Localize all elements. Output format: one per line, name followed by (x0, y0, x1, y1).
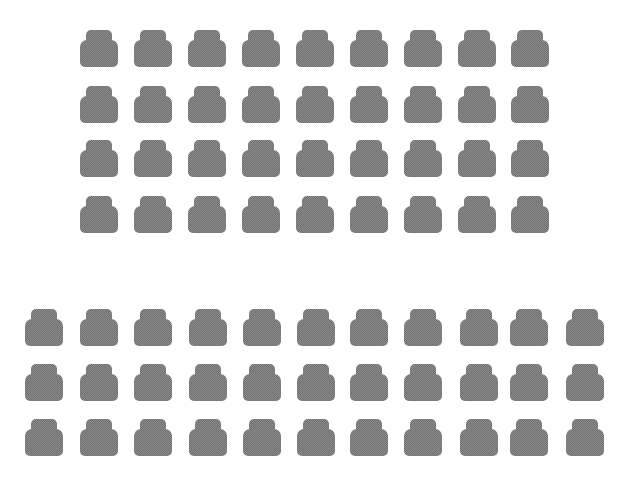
floor-mat-icon (510, 309, 548, 346)
floor-mat-icon (350, 309, 388, 346)
floor-mat-icon (134, 140, 172, 177)
floor-mat-icon (460, 364, 498, 401)
floor-mat-icon (458, 30, 496, 67)
floor-mat-icon (242, 30, 280, 67)
floor-mat-icon (80, 86, 118, 123)
floor-mat-icon (458, 86, 496, 123)
floor-mat-icon (511, 196, 549, 233)
floor-mat-icon (296, 140, 334, 177)
floor-mat-icon (297, 419, 335, 456)
floor-mat-icon (80, 30, 118, 67)
floor-mat-icon (189, 309, 227, 346)
floor-mat-icon (350, 364, 388, 401)
floor-mat-icon (296, 86, 334, 123)
floor-mat-icon (296, 196, 334, 233)
floor-mat-icon (189, 364, 227, 401)
floor-mat-icon (350, 196, 388, 233)
floor-mat-icon (297, 364, 335, 401)
floor-mat-icon (404, 364, 442, 401)
floor-mat-icon (25, 419, 63, 456)
floor-mat-icon (242, 86, 280, 123)
floor-mat-icon (350, 86, 388, 123)
floor-mat-icon (80, 309, 118, 346)
floor-mat-icon (134, 30, 172, 67)
floor-mat-icon (404, 140, 442, 177)
floor-mat-icon (188, 86, 226, 123)
floor-mat-icon (80, 419, 118, 456)
floor-mat-icon (242, 196, 280, 233)
floor-mat-icon (188, 196, 226, 233)
floor-mat-icon (134, 364, 172, 401)
floor-mat-icon (511, 86, 549, 123)
floor-mat-icon (458, 196, 496, 233)
floor-mat-icon (188, 30, 226, 67)
floor-mat-icon (80, 196, 118, 233)
floor-mat-icon (134, 196, 172, 233)
floor-mat-icon (404, 86, 442, 123)
floor-mat-icon (134, 419, 172, 456)
floor-mat-icon (243, 419, 281, 456)
floor-mat-icon (566, 309, 604, 346)
floor-mat-icon (511, 140, 549, 177)
floor-mat-icon (458, 140, 496, 177)
floor-mat-icon (25, 364, 63, 401)
floor-mat-icon (243, 364, 281, 401)
floor-mat-icon (296, 30, 334, 67)
floor-mat-icon (350, 30, 388, 67)
floor-mat-icon (134, 309, 172, 346)
floor-mat-icon (297, 309, 335, 346)
floor-mat-icon (188, 140, 226, 177)
floor-mat-icon (566, 364, 604, 401)
floor-mat-icon (511, 30, 549, 67)
floor-mat-icon (25, 309, 63, 346)
floor-mat-icon (134, 86, 172, 123)
floor-mat-icon (404, 309, 442, 346)
floor-mat-icon (404, 30, 442, 67)
floor-mat-icon (460, 309, 498, 346)
floor-mat-icon (510, 364, 548, 401)
floor-mat-icon (404, 196, 442, 233)
floor-mat-icon (242, 140, 280, 177)
floor-mat-icon (404, 419, 442, 456)
floor-mat-icon (566, 419, 604, 456)
floor-mat-icon (189, 419, 227, 456)
floor-mat-icon (80, 364, 118, 401)
floor-mat-icon (80, 140, 118, 177)
floor-mat-icon (460, 419, 498, 456)
floor-mat-icon (350, 419, 388, 456)
floor-mat-icon (243, 309, 281, 346)
floor-mat-icon (350, 140, 388, 177)
floor-mat-icon (510, 419, 548, 456)
